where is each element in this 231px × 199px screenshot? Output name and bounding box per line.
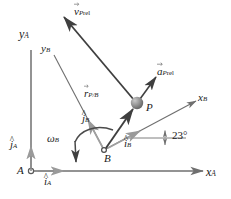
hat-accent-icon: ^ xyxy=(44,173,47,182)
axis-label-xA: xA xyxy=(206,166,216,178)
vector-v-P-rel-arrow xyxy=(64,17,134,100)
unit-vector-label-jB: ^jB xyxy=(82,113,89,124)
vector-label-a-P-rel: aPrel xyxy=(157,66,174,77)
angle-label-23deg: 23° xyxy=(172,130,187,141)
unit-vector-label-iA: ^iA xyxy=(44,176,51,187)
vector-accent-icon xyxy=(74,2,79,5)
axis-label-yB: yB xyxy=(41,43,50,54)
point-label-B: B xyxy=(104,153,111,164)
point-label-A: A xyxy=(17,165,24,176)
vector-a-P-rel-arrow xyxy=(140,77,156,99)
hat-accent-icon: ^ xyxy=(10,136,13,145)
particle-P-marker xyxy=(131,97,143,109)
vector-label-v-P-rel: vPrel xyxy=(74,6,90,17)
vector-label-r-P-over-B: rP/B xyxy=(84,88,99,99)
kinematics-figure: yA yB xA xB A B P ^iA ^jA ^iB ^jB ωB xyxy=(0,0,231,199)
hat-accent-icon: ^ xyxy=(82,110,85,119)
axis-label-xB: xB xyxy=(198,92,207,103)
hat-accent-icon: ^ xyxy=(124,135,127,144)
axis-label-yA: yA xyxy=(19,28,29,40)
figure-canvas xyxy=(0,0,231,199)
vector-accent-icon xyxy=(84,84,88,87)
angular-velocity-label-omegaB: ωB xyxy=(47,133,59,144)
unit-vector-jB-arrow xyxy=(88,120,104,150)
unit-vector-label-iB: ^iB xyxy=(124,138,131,149)
vector-accent-icon xyxy=(157,62,163,65)
unit-vector-label-jA: ^jA xyxy=(10,139,17,150)
point-label-P: P xyxy=(146,102,153,113)
